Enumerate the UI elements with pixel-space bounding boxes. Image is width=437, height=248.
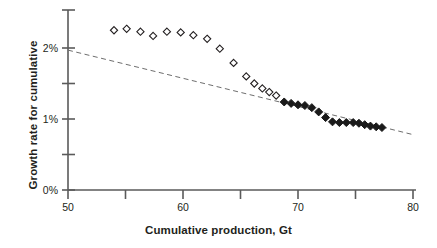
data-point-filled-diamond — [315, 108, 323, 116]
x-tick-label: 60 — [177, 201, 189, 213]
series-open-diamonds — [110, 25, 279, 99]
data-point-filled-diamond — [301, 102, 309, 110]
data-point-open-diamond — [251, 80, 258, 87]
data-point-open-diamond — [163, 28, 170, 35]
y-tick-label: 0% — [34, 184, 58, 196]
data-point-filled-diamond — [322, 114, 330, 122]
data-point-filled-diamond — [329, 118, 337, 126]
data-point-open-diamond — [177, 29, 184, 36]
data-point-open-diamond — [266, 88, 273, 95]
data-point-filled-diamond — [308, 104, 316, 112]
data-point-open-diamond — [243, 73, 250, 80]
y-tick-label: 1% — [34, 113, 58, 125]
x-tick-label: 80 — [407, 201, 419, 213]
data-point-open-diamond — [230, 59, 237, 66]
axes — [68, 10, 416, 190]
x-tick-label: 50 — [62, 201, 74, 213]
x-tick-label: 70 — [292, 201, 304, 213]
data-point-open-diamond — [259, 85, 266, 92]
data-point-open-diamond — [273, 92, 280, 99]
data-point-filled-diamond — [378, 124, 386, 132]
data-point-filled-diamond — [287, 99, 295, 107]
data-point-open-diamond — [123, 25, 130, 32]
growth-rate-scatter-chart: Cumulative production, Gt Growth rate fo… — [0, 0, 437, 248]
x-axis-ticks — [68, 190, 413, 199]
data-point-open-diamond — [150, 32, 157, 39]
y-tick-label: 2% — [34, 42, 58, 54]
data-point-open-diamond — [190, 32, 197, 39]
data-point-open-diamond — [110, 27, 117, 34]
x-axis-title: Cumulative production, Gt — [0, 224, 437, 236]
data-point-open-diamond — [204, 35, 211, 42]
data-point-open-diamond — [216, 45, 223, 52]
data-point-open-diamond — [137, 28, 144, 35]
data-point-filled-diamond — [280, 98, 288, 106]
